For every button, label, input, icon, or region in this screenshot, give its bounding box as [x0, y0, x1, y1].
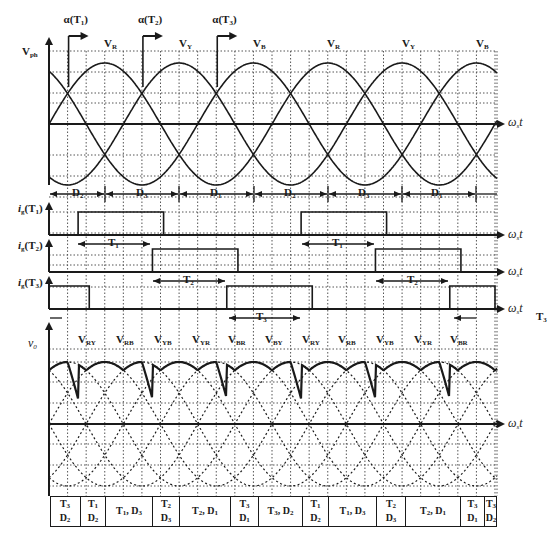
- gate-pulse-T3: [227, 286, 312, 309]
- diode-interval-arrow-left: [180, 191, 187, 197]
- T2-interval-arrow-r: [218, 278, 225, 284]
- T2-interval-label: T2: [183, 274, 194, 287]
- conduction-cell-top: T2: [161, 498, 171, 512]
- conduction-cell-bottom: D1: [239, 512, 250, 526]
- conduction-cell: T3D2: [484, 496, 497, 527]
- conduction-cell-bottom: D2: [310, 512, 321, 526]
- T2-interval-arrow-l: [153, 278, 160, 284]
- T2-interval-arrow-r: [441, 278, 448, 284]
- conduction-cell-bottom: D2: [60, 512, 71, 526]
- gate-axis-1-head: [45, 202, 53, 210]
- T1-interval-arrow-r: [143, 241, 150, 247]
- diode-interval-arrow-right: [246, 191, 253, 197]
- conduction-cell-top: T3: [60, 498, 70, 512]
- alpha-marker-arrow-head: [81, 32, 89, 40]
- T3-interval-label: T3: [256, 311, 267, 324]
- conduction-cell: T2, D1: [405, 496, 460, 527]
- output-segment-label-VYB: VYB: [154, 334, 172, 347]
- conduction-cell: T2D3: [152, 496, 179, 527]
- conduction-cell: T1, D3: [328, 496, 376, 527]
- T3-interval-label: T3: [536, 311, 547, 324]
- conduction-cell-top: T1, D3: [340, 505, 366, 519]
- diode-interval-label-D2: D2: [72, 187, 83, 200]
- alpha-label-T1: α(T1): [64, 14, 88, 27]
- omega-t-label: ωst: [508, 417, 523, 431]
- alpha-label-T2: α(T2): [138, 14, 162, 27]
- output-segment-label-VRB: VRB: [116, 334, 134, 347]
- conduction-cell-top: T2, D1: [420, 505, 446, 519]
- output-segment-label-VRY: VRY: [302, 334, 320, 347]
- diode-interval-arrow-left: [50, 191, 57, 197]
- gate-pulse-T3: [450, 286, 495, 309]
- conduction-cell-top: T2, D1: [192, 505, 218, 519]
- conduction-cell-top: T1: [310, 498, 320, 512]
- gate-pulse-T1: [78, 212, 163, 235]
- wt-axis-1-head: [497, 120, 505, 128]
- T1-interval-arrow-r: [367, 241, 374, 247]
- conduction-cell-top: T3: [486, 498, 496, 512]
- phase-label-VY: VY: [402, 38, 415, 51]
- gate-wt-axis-1-head: [497, 231, 505, 239]
- conduction-cell: T2D3: [376, 496, 405, 527]
- T3-interval-arrow-l: [229, 315, 236, 321]
- vph-axis-arrow-head: [45, 37, 53, 45]
- output-segment-label-VBR: VBR: [450, 334, 468, 347]
- diode-interval-arrow-left: [403, 191, 410, 197]
- diode-interval-arrow-right: [171, 191, 178, 197]
- alpha-marker-arrow-head: [155, 32, 163, 40]
- conduction-cell: T3D2: [50, 496, 80, 527]
- conduction-cell-top: T3: [239, 498, 249, 512]
- omega-t-label: ωst: [508, 228, 523, 242]
- output-segment-label-VRY: VRY: [78, 334, 96, 347]
- omega-t-label: ωst: [508, 302, 523, 316]
- diode-interval-arrow-left: [106, 191, 113, 197]
- diode-interval-arrow-left: [255, 191, 262, 197]
- diode-interval-label-D2: D2: [284, 187, 295, 200]
- dotted-grid: [49, 51, 497, 496]
- diode-interval-label-D1: D1: [210, 187, 221, 200]
- gate-ylabel-T3: ig(T3): [18, 277, 43, 290]
- conduction-cell-top: T1, D3: [116, 505, 142, 519]
- conduction-cell-top: T3, D2: [268, 505, 294, 519]
- gate-ylabel-T1: ig(T1): [18, 203, 43, 216]
- T2-interval-arrow-l: [376, 278, 383, 284]
- gate-pulse-T2: [152, 249, 237, 272]
- conduction-cell: T1, D3: [105, 496, 152, 527]
- diode-interval-label-D3: D3: [136, 187, 147, 200]
- vph-label: Vph: [22, 46, 38, 59]
- alpha-label-T3: α(T3): [212, 14, 236, 27]
- T1-interval-label: T1: [108, 237, 119, 250]
- phase-label-VB: VB: [476, 38, 489, 51]
- gate-pulse-T2: [375, 249, 460, 272]
- conduction-cell: T3, D2: [258, 496, 302, 527]
- T2-interval-label: T2: [407, 274, 418, 287]
- output-segment-label-VRB: VRB: [338, 334, 356, 347]
- gate-pulse-T1: [301, 212, 386, 235]
- conduction-cell: T2, D1: [179, 496, 230, 527]
- alpha-marker-arrow-head: [229, 32, 237, 40]
- v0-label: v0: [28, 337, 37, 351]
- conduction-cell-bottom: D2: [88, 512, 99, 526]
- conduction-cell: T3D1: [460, 496, 484, 527]
- gate-pulse-T3: [49, 286, 89, 309]
- phase-label-VR: VR: [327, 38, 340, 51]
- omega-t-label: ωst: [508, 116, 523, 130]
- diode-interval-label-D1: D1: [431, 187, 442, 200]
- conduction-cell-bottom: D3: [386, 512, 397, 526]
- gate-axis-3-head: [45, 276, 53, 284]
- conduction-cell-top: T3: [467, 498, 477, 512]
- v0-axis-arrow-head: [45, 322, 53, 330]
- conduction-cell-bottom: D1: [467, 512, 478, 526]
- diode-interval-arrow-left: [329, 191, 336, 197]
- gate-axis-2-head: [45, 239, 53, 247]
- conduction-cell-top: T1: [88, 498, 98, 512]
- diode-interval-arrow-right: [320, 191, 327, 197]
- waveform-curves: [49, 63, 497, 486]
- wt-axis-out-head: [497, 420, 505, 428]
- output-segment-label-VYR: VYR: [414, 334, 432, 347]
- omega-t-label: ωst: [508, 265, 523, 279]
- diode-interval-arrow-right: [394, 191, 401, 197]
- conduction-cell: T1D2: [80, 496, 105, 527]
- output-segment-label-VYB: VYB: [376, 334, 394, 347]
- conduction-cell-top: T2: [386, 498, 396, 512]
